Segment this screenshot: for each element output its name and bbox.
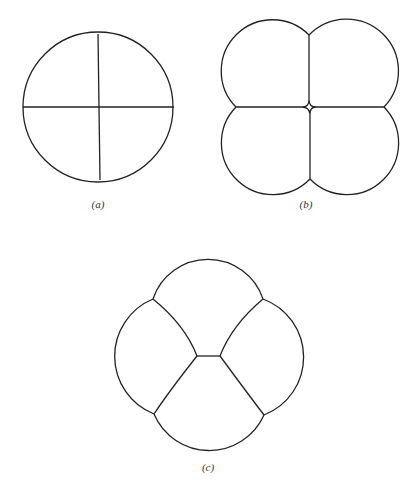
panel-b-label: (b) [300,198,313,210]
panel-a-label: (a) [92,198,105,210]
panel-c-drawing [115,259,304,450]
panel-b-drawing [221,19,398,195]
panel-a-drawing [23,32,174,182]
panel-c-label: (c) [202,461,214,473]
figure-canvas [0,0,408,483]
